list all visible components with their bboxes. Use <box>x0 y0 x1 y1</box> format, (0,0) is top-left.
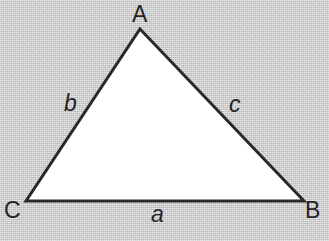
side-label-b: b <box>64 92 77 115</box>
triangle-figure <box>0 0 329 241</box>
figure-canvas: A B C a b c <box>0 0 329 241</box>
side-label-c: c <box>229 93 241 116</box>
side-label-a: a <box>151 203 164 226</box>
vertex-label-c: C <box>4 199 21 222</box>
vertex-label-b: B <box>305 199 320 222</box>
vertex-label-a: A <box>132 3 147 26</box>
